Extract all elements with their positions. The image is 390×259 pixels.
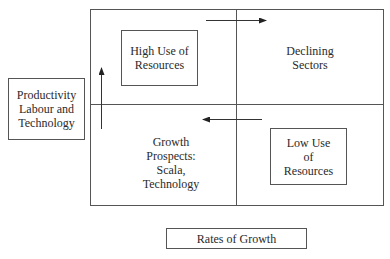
x-axis-label-box: Rates of Growth	[166, 228, 307, 249]
quadrant-top-right: Declining Sectors	[237, 38, 383, 78]
quadrant-top-left-label: High Use of Resources	[130, 44, 189, 72]
quadrant-top-left-box: High Use of Resources	[121, 30, 198, 86]
x-axis-label: Rates of Growth	[197, 232, 276, 246]
quadrant-bottom-right-label: Low Use of Resources	[284, 136, 333, 178]
y-axis-label-box: Productivity Labour and Technology	[8, 78, 85, 140]
quadrant-bottom-left-label: Growth Prospects: Scala, Technology	[143, 135, 199, 191]
quadrant-bottom-left: Growth Prospects: Scala, Technology	[118, 132, 224, 194]
y-axis-label: Productivity Labour and Technology	[17, 88, 76, 130]
quadrant-top-right-label: Declining Sectors	[286, 44, 333, 72]
quadrant-bottom-right-box: Low Use of Resources	[270, 128, 347, 185]
